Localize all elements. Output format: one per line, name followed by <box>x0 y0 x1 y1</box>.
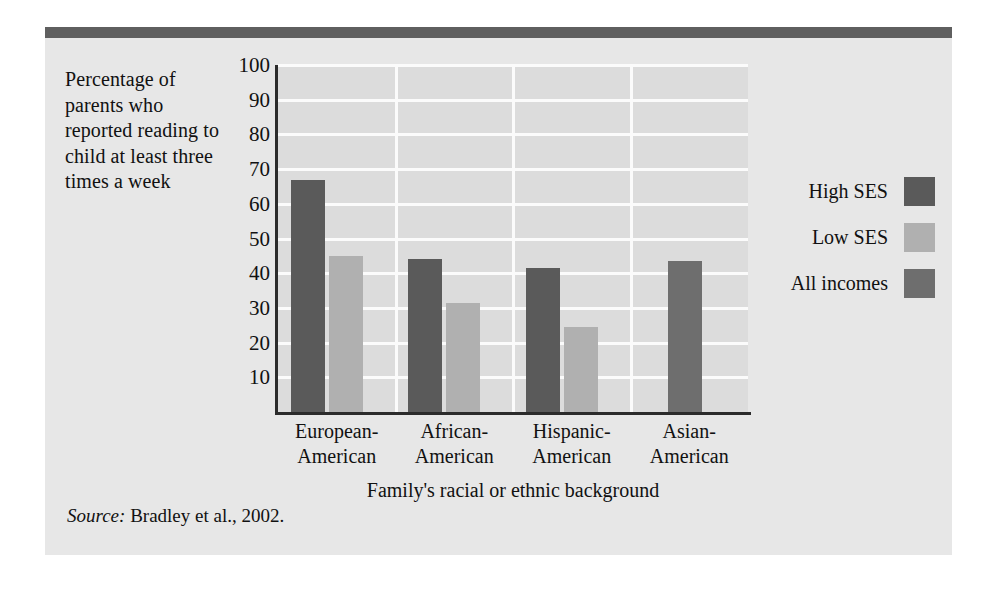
x-category-label-line: African- <box>396 419 514 444</box>
legend-swatch-icon <box>904 223 935 252</box>
bar-3-high-ses <box>526 268 560 412</box>
x-axis-title: Family's racial or ethnic background <box>278 479 748 502</box>
y-axis-caption: Percentage of parents who reported readi… <box>65 67 230 195</box>
legend-label: All incomes <box>791 271 888 295</box>
y-tick-label-40: 40 <box>226 263 270 284</box>
x-category-label-line: American <box>278 444 396 469</box>
gridline-x-2 <box>512 65 515 412</box>
y-tick-label-30: 30 <box>226 298 270 319</box>
y-tick-label-10: 10 <box>226 367 270 388</box>
bar-4-all-incomes <box>668 261 702 412</box>
legend-item-all-incomes[interactable]: All incomes <box>760 269 935 315</box>
source-note: Source: Bradley et al., 2002. <box>67 505 284 527</box>
bar-2-high-ses <box>408 259 442 412</box>
source-label: Source: <box>67 505 125 526</box>
y-tick-label-60: 60 <box>226 194 270 215</box>
legend-label: Low SES <box>812 225 888 249</box>
x-category-label-line: Hispanic- <box>513 419 631 444</box>
legend-label: High SES <box>809 179 888 203</box>
legend-item-high-ses[interactable]: High SES <box>760 177 935 223</box>
y-tick-label-100: 100 <box>226 55 270 76</box>
legend-item-low-ses[interactable]: Low SES <box>760 223 935 269</box>
y-tick-label-80: 80 <box>226 124 270 145</box>
gridline-x-3 <box>630 65 633 412</box>
x-axis-category-labels: European-AmericanAfrican-AmericanHispani… <box>278 419 748 479</box>
x-category-label-1: European-American <box>278 419 396 469</box>
x-category-label-line: American <box>631 444 749 469</box>
plot-region: 102030405060708090100 <box>278 65 748 412</box>
y-tick-label-50: 50 <box>226 229 270 250</box>
figure-panel: Percentage of parents who reported readi… <box>45 27 952 555</box>
x-axis-line <box>275 412 751 415</box>
gridline-x-1 <box>395 65 398 412</box>
chart-legend: High SESLow SESAll incomes <box>760 177 935 315</box>
source-citation: Bradley et al., 2002. <box>125 505 284 526</box>
y-tick-label-70: 70 <box>226 159 270 180</box>
x-category-label-2: African-American <box>396 419 514 469</box>
x-category-label-line: American <box>396 444 514 469</box>
legend-swatch-icon <box>904 177 935 206</box>
x-category-label-line: American <box>513 444 631 469</box>
bar-3-low-ses <box>564 327 598 412</box>
y-axis-tick-labels: 102030405060708090100 <box>222 65 270 412</box>
x-category-label-4: Asian-American <box>631 419 749 469</box>
y-tick-label-20: 20 <box>226 333 270 354</box>
bar-2-low-ses <box>446 303 480 412</box>
y-tick-label-90: 90 <box>226 90 270 111</box>
legend-swatch-icon <box>904 269 935 298</box>
x-category-label-line: European- <box>278 419 396 444</box>
top-rule-divider <box>45 27 952 38</box>
x-category-label-3: Hispanic-American <box>513 419 631 469</box>
bar-1-high-ses <box>291 180 325 412</box>
x-category-label-line: Asian- <box>631 419 749 444</box>
bar-1-low-ses <box>329 256 363 412</box>
y-axis-line <box>275 65 278 412</box>
